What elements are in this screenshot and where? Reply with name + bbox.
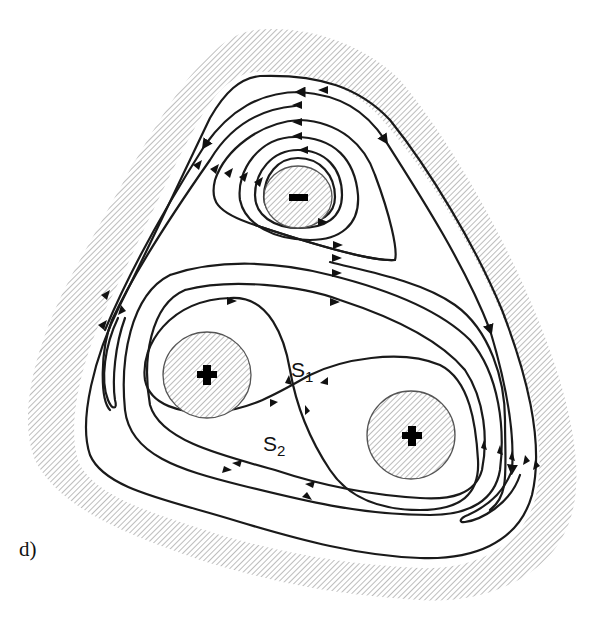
label-s2: S2 [263, 432, 285, 459]
panel-label: d) [19, 537, 37, 562]
label-s1-main: S [291, 358, 305, 381]
label-s1-sub: 1 [305, 368, 313, 385]
streamline-diagram [0, 0, 598, 629]
minus-icon [289, 194, 308, 201]
label-s1: S1 [291, 358, 313, 385]
label-s2-sub: 2 [277, 442, 285, 459]
label-s2-main: S [263, 432, 277, 455]
